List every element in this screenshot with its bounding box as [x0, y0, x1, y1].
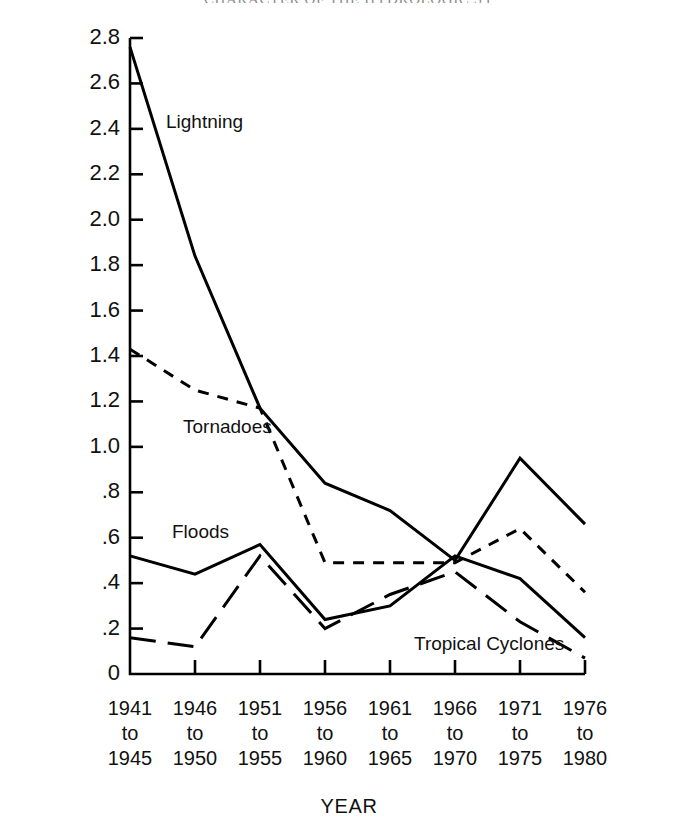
x-tick-label-line: 1965 — [355, 746, 425, 771]
y-tick-label: .8 — [58, 480, 120, 502]
x-tick-label: 1951to1955 — [225, 696, 295, 771]
deaths-per-million-line-chart: 2.82.62.42.22.01.81.61.41.21.0.8.6.4.20 … — [0, 0, 698, 839]
x-tick-label-line: to — [225, 721, 295, 746]
series-label-tropical-cyclones: Tropical Cyclones — [414, 633, 564, 655]
x-tick-label-line: 1976 — [550, 696, 620, 721]
x-tick-label-line: 1951 — [225, 696, 295, 721]
x-tick-label-line: to — [95, 721, 165, 746]
y-tick-label: 2.6 — [58, 71, 120, 93]
x-tick-label-line: 1966 — [420, 696, 490, 721]
series-label-lightning: Lightning — [166, 111, 243, 133]
y-tick-label: 1.4 — [58, 344, 120, 366]
series-label-tornadoes: Tornadoes — [183, 416, 272, 438]
x-axis-title: YEAR — [0, 795, 698, 818]
x-tick-label-line: 1971 — [485, 696, 555, 721]
x-tick-label-line: 1961 — [355, 696, 425, 721]
series-line-tornadoes — [130, 349, 585, 592]
x-tick-label-line: 1956 — [290, 696, 360, 721]
x-tick-label-line: 1946 — [160, 696, 230, 721]
y-tick-label: .6 — [58, 526, 120, 548]
y-tick-label: 1.0 — [58, 435, 120, 457]
x-tick-label: 1976to1980 — [550, 696, 620, 771]
x-tick-label-line: to — [550, 721, 620, 746]
x-tick-label: 1941to1945 — [95, 696, 165, 771]
y-tick-label: 1.8 — [58, 253, 120, 275]
x-tick-label: 1961to1965 — [355, 696, 425, 771]
y-tick-label: 2.4 — [58, 117, 120, 139]
x-tick-label: 1971to1975 — [485, 696, 555, 771]
x-tick-label-line: to — [485, 721, 555, 746]
y-tick-label: 2.8 — [58, 26, 120, 48]
x-tick-label: 1946to1950 — [160, 696, 230, 771]
x-tick-label-line: 1960 — [290, 746, 360, 771]
x-tick-label-line: 1980 — [550, 746, 620, 771]
y-tick-label: 2.0 — [58, 208, 120, 230]
x-tick-label-line: to — [420, 721, 490, 746]
x-tick-label-line: to — [290, 721, 360, 746]
y-axis-title: DEATHS PER MILLION POPULATION — [0, 0, 46, 839]
x-tick-label-line: to — [160, 721, 230, 746]
series-label-floods: Floods — [172, 521, 229, 543]
y-tick-label: 1.6 — [58, 299, 120, 321]
x-tick-label-line: 1970 — [420, 746, 490, 771]
y-tick-label: 1.2 — [58, 389, 120, 411]
x-tick-label: 1966to1970 — [420, 696, 490, 771]
y-tick-label: 2.2 — [58, 162, 120, 184]
series-line-floods — [130, 545, 585, 638]
x-tick-label-line: 1955 — [225, 746, 295, 771]
x-tick-label-line: 1975 — [485, 746, 555, 771]
y-tick-label: .4 — [58, 571, 120, 593]
x-tick-label-line: 1950 — [160, 746, 230, 771]
series-lines — [130, 47, 585, 658]
x-tick-label-line: 1945 — [95, 746, 165, 771]
y-tick-label: .2 — [58, 617, 120, 639]
x-tick-label-line: to — [355, 721, 425, 746]
y-tick-label: 0 — [58, 662, 120, 684]
x-tick-label-line: 1941 — [95, 696, 165, 721]
x-tick-label: 1956to1960 — [290, 696, 360, 771]
